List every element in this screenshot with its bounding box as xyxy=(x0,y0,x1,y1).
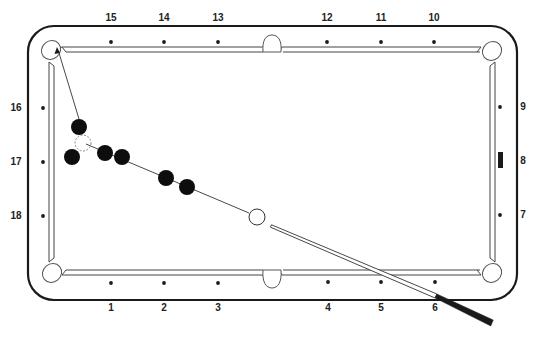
object-ball xyxy=(97,145,113,161)
cue-butt xyxy=(435,294,493,326)
rail-corner-line xyxy=(49,62,54,66)
diamond-dot-top xyxy=(379,40,383,44)
pocket-bottom-right-corner xyxy=(479,260,506,287)
diamond-label-left: 16 xyxy=(10,103,21,113)
diamond-bar-marker xyxy=(498,152,503,168)
rail-corner-line xyxy=(49,258,54,262)
diamond-dot-left xyxy=(41,160,45,164)
pocket-bottom-left-corner xyxy=(39,260,66,287)
diamond-dot-top xyxy=(216,40,220,44)
diamond-label-bottom: 6 xyxy=(432,303,438,313)
diamond-label-bottom: 5 xyxy=(378,303,384,313)
diamond-label-top: 10 xyxy=(428,13,439,23)
diamond-dot-right xyxy=(498,105,502,109)
diamond-label-top: 13 xyxy=(212,13,223,23)
rail-line xyxy=(62,47,266,50)
pool-table-svg xyxy=(0,0,539,339)
diamond-dot-bottom xyxy=(326,280,330,284)
rail-corner-line xyxy=(490,258,495,262)
diamond-label-bottom: 2 xyxy=(161,303,167,313)
diamond-label-top: 12 xyxy=(321,13,332,23)
diamond-label-bottom: 4 xyxy=(325,303,331,313)
balls xyxy=(64,119,265,225)
cue-shaft xyxy=(270,225,436,298)
diamond-dot-top xyxy=(325,40,329,44)
diamond-label-top: 11 xyxy=(376,13,387,23)
pocket-top-side xyxy=(263,35,281,52)
aim-line-to-pocket xyxy=(59,53,79,119)
diamond-markers xyxy=(41,40,503,285)
table-outer-frame xyxy=(28,26,517,300)
diamond-label-bottom: 3 xyxy=(215,303,221,313)
ghost-ball xyxy=(75,135,91,151)
diamond-dot-bottom xyxy=(109,281,113,285)
diamond-label-right: 8 xyxy=(520,156,526,166)
diamond-label-bottom: 1 xyxy=(108,303,114,313)
pocket-bottom-side xyxy=(263,270,281,288)
side-pocket-shape xyxy=(263,270,281,288)
diamond-label-left: 17 xyxy=(10,157,21,167)
rail-corner-line xyxy=(62,47,66,52)
object-ball xyxy=(71,119,87,135)
diamond-dot-top xyxy=(162,40,166,44)
object-ball xyxy=(114,149,130,165)
rail-line xyxy=(62,272,266,275)
diamond-dot-bottom xyxy=(162,281,166,285)
diamond-dot-left xyxy=(41,214,45,218)
rail-corner-line xyxy=(490,62,495,66)
diamond-label-right: 9 xyxy=(520,102,526,112)
object-ball xyxy=(64,149,80,165)
rail-line xyxy=(280,47,481,50)
cue-ball xyxy=(249,209,265,225)
side-pocket-shape xyxy=(263,35,281,52)
diamond-dot-bottom xyxy=(379,280,383,284)
diamond-dot-top xyxy=(109,40,113,44)
object-ball xyxy=(158,170,174,186)
diamond-label-top: 15 xyxy=(105,13,116,23)
rail-corner-line xyxy=(477,47,481,52)
diamond-dot-top xyxy=(432,40,436,44)
rail-corner-line xyxy=(477,270,481,275)
pockets xyxy=(38,35,506,288)
diamond-dot-right xyxy=(498,213,502,217)
diamond-label-top: 14 xyxy=(158,13,169,23)
diamond-label-right: 7 xyxy=(520,210,526,220)
pocket-top-right-corner xyxy=(479,38,506,65)
diamond-label-left: 18 xyxy=(10,211,21,221)
diamond-dot-bottom xyxy=(216,281,220,285)
diamond-dot-left xyxy=(41,106,45,110)
pocket-top-left-corner xyxy=(38,37,65,64)
object-ball xyxy=(179,179,195,195)
diamond-dot-bottom xyxy=(433,280,437,284)
rail-corner-line xyxy=(62,270,66,275)
